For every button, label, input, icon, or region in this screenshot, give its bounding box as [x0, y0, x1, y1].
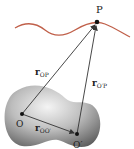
label-p: P: [96, 4, 103, 15]
label-o-prime: O′: [73, 140, 82, 149]
point-p: [95, 20, 100, 25]
point-o-prime: [75, 132, 79, 136]
reference-frames-diagram: P O O′ rOP rO′P rOO′: [0, 0, 134, 149]
label-r-op: rOP: [35, 67, 49, 78]
trajectory-curve: [15, 22, 130, 37]
label-o: O: [16, 119, 23, 129]
label-r-oprime-p: rO′P: [92, 78, 107, 89]
rigid-body: [5, 85, 101, 147]
point-o: [20, 112, 24, 116]
